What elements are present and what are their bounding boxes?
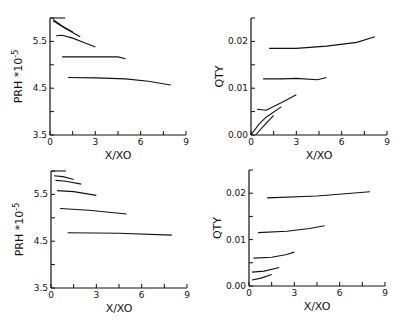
data-curve — [60, 208, 126, 214]
chart-panel-bottom-left: 03693.54.55.5X/XOPRH *10-5 — [12, 171, 190, 315]
y-tick-label: 5.5 — [33, 36, 47, 46]
y-axis-label: QTY — [211, 217, 224, 239]
x-tick-label: 6 — [139, 290, 145, 300]
x-tick-label: 3 — [92, 137, 98, 147]
y-tick-label: 0.00 — [228, 130, 248, 140]
data-curve — [254, 252, 295, 258]
x-axis-label: X/XO — [106, 302, 133, 315]
data-curve — [68, 233, 172, 235]
data-curve — [258, 226, 324, 233]
x-tick-label: 3 — [293, 137, 299, 147]
data-curve — [263, 77, 326, 79]
data-curve — [252, 267, 279, 272]
chart-panel-bottom-right: 03690.000.010.02X/XOQTY — [211, 170, 388, 313]
y-tick-label: 4.5 — [34, 236, 48, 246]
x-axis-label: X/XO — [105, 149, 132, 162]
x-tick-label: 9 — [382, 288, 388, 298]
x-tick-label: 6 — [138, 137, 144, 147]
x-tick-label: 0 — [248, 137, 254, 147]
x-axis-label: X/XO — [306, 149, 333, 162]
x-tick-label: 0 — [48, 290, 54, 300]
data-curve — [56, 180, 82, 184]
x-tick-label: 9 — [384, 137, 390, 147]
y-tick-label: 3.5 — [34, 283, 48, 293]
y-tick-label: 0.01 — [228, 83, 248, 93]
data-curve — [54, 176, 74, 180]
chart-panel-top-right: 03690.000.010.02X/XOQTY — [213, 18, 390, 162]
data-curve — [62, 57, 125, 59]
y-tick-label: 0.02 — [228, 36, 248, 46]
data-curve — [251, 107, 281, 135]
x-tick-label: 3 — [93, 290, 99, 300]
y-tick-label: 4.5 — [33, 83, 47, 93]
y-tick-label: 0.00 — [226, 281, 246, 291]
data-curve — [56, 35, 95, 47]
y-tick-label: 3.5 — [33, 130, 47, 140]
figure: 03693.54.55.5X/XOPRH *10-503690.000.010.… — [0, 0, 407, 327]
data-curve — [257, 95, 296, 110]
x-axis-label: X/XO — [304, 300, 331, 313]
y-axis-label: QTY — [213, 65, 226, 87]
y-axis-label: PRH *10-5 — [12, 203, 26, 257]
chart-panel-top-left: 03693.54.55.5X/XOPRH *10-5 — [11, 18, 189, 162]
data-curve — [53, 21, 80, 37]
x-tick-label: 6 — [337, 288, 343, 298]
data-curve — [269, 37, 375, 49]
data-curve — [53, 19, 73, 32]
data-curve — [57, 191, 96, 196]
x-tick-label: 3 — [291, 288, 297, 298]
x-tick-label: 0 — [246, 288, 252, 298]
y-tick-label: 5.5 — [34, 189, 48, 199]
x-tick-label: 0 — [47, 137, 53, 147]
y-axis-label: PRH *10-5 — [11, 50, 25, 104]
y-tick-label: 0.01 — [226, 235, 246, 245]
x-tick-label: 9 — [183, 137, 189, 147]
y-tick-label: 0.02 — [226, 188, 246, 198]
data-curve — [68, 77, 171, 84]
x-tick-label: 9 — [184, 290, 190, 300]
x-tick-label: 6 — [339, 137, 345, 147]
data-curve — [252, 274, 272, 280]
data-curve — [267, 192, 370, 198]
